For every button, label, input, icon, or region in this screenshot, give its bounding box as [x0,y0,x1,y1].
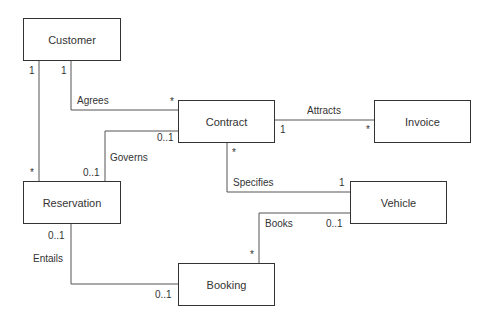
class-customer[interactable]: Customer [23,18,121,61]
mult-entails-reservation: 0..1 [48,231,65,241]
class-name: Vehicle [381,197,416,209]
mult-customer-reservation-src: 1 [29,66,35,76]
class-reservation[interactable]: Reservation [23,181,121,224]
mult-agrees-contract: * [170,97,174,107]
class-contract[interactable]: Contract [178,100,275,143]
mult-customer-agrees-src: 1 [61,66,67,76]
class-name: Customer [48,34,96,46]
mult-entails-booking: 0..1 [155,290,172,300]
class-name: Booking [207,279,247,291]
class-vehicle[interactable]: Vehicle [350,181,447,224]
class-name: Reservation [43,197,102,209]
assoc-label-specifies: Specifies [233,178,274,188]
mult-customer-reservation-dst: * [30,168,34,178]
assoc-label-attracts: Attracts [307,106,341,116]
assoc-label-governs: Governs [110,153,148,163]
assoc-label-books: Books [265,219,293,229]
mult-attracts-invoice: * [366,125,370,135]
mult-governs-reservation: 0..1 [83,168,100,178]
class-name: Contract [206,116,248,128]
mult-attracts-contract: 1 [280,125,286,135]
mult-books-booking: * [250,250,254,260]
mult-governs-contract: 0..1 [157,133,174,143]
line-entails [71,224,178,284]
mult-books-vehicle: 0..1 [326,219,343,229]
mult-specifies-contract: * [232,148,236,158]
class-invoice[interactable]: Invoice [374,100,471,143]
mult-specifies-vehicle: 1 [339,178,345,188]
class-booking[interactable]: Booking [178,263,275,306]
assoc-label-agrees: Agrees [77,96,109,106]
class-name: Invoice [405,116,440,128]
assoc-label-entails: Entails [33,254,63,264]
